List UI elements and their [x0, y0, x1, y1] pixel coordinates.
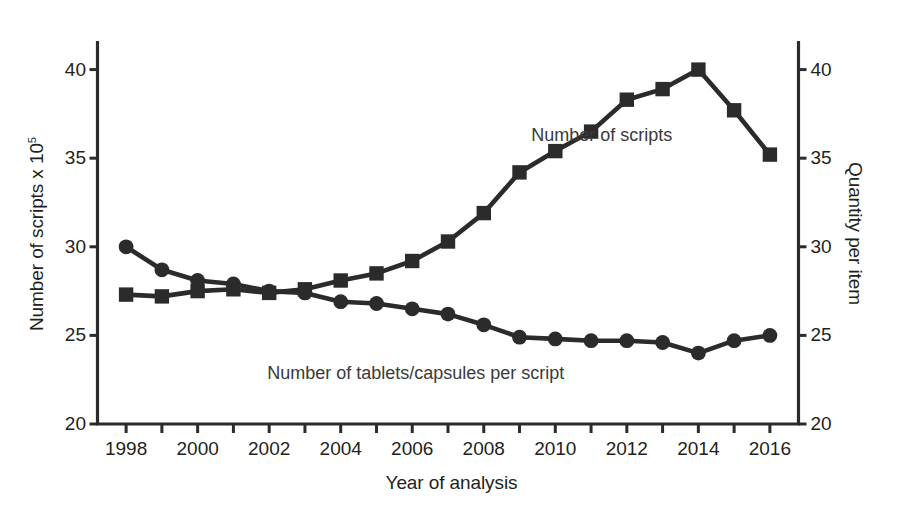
x-tick-label: 2002	[248, 438, 290, 460]
marker-square	[655, 82, 669, 96]
y-tick-label-left: 35	[30, 147, 86, 169]
marker-circle	[405, 301, 420, 316]
marker-circle	[155, 262, 170, 277]
marker-square	[155, 289, 169, 303]
x-tick-label: 2014	[677, 438, 719, 460]
series-annotation-2: Number of tablets/capsules per script	[267, 362, 564, 383]
x-tick-label: 2006	[391, 438, 433, 460]
marker-circle	[119, 239, 134, 254]
y-tick-label-right: 30	[811, 236, 832, 258]
y-tick-label-left: 40	[30, 59, 86, 81]
marker-square	[691, 62, 705, 76]
x-axis-title-text: Year of analysis	[386, 472, 518, 493]
marker-square	[334, 273, 348, 287]
y-tick-label-right: 20	[811, 413, 832, 435]
y-tick-label-left: 30	[30, 236, 86, 258]
marker-circle	[298, 286, 313, 301]
marker-circle	[619, 333, 634, 348]
marker-circle	[226, 277, 241, 292]
y-tick-label-right: 25	[811, 324, 832, 346]
marker-square	[405, 254, 419, 268]
x-tick-label: 2012	[606, 438, 648, 460]
marker-circle	[369, 296, 384, 311]
marker-circle	[655, 335, 670, 350]
marker-circle	[190, 273, 205, 288]
y-axis-right-title: Quantity per item	[844, 162, 866, 305]
chart-plot-area	[0, 0, 903, 507]
x-tick-label: 2008	[463, 438, 505, 460]
y-tick-label-right: 40	[811, 59, 832, 81]
x-axis-title: Year of analysis	[0, 472, 903, 494]
series-line-2	[126, 247, 770, 353]
series-markers	[119, 62, 778, 360]
marker-square	[119, 287, 133, 301]
marker-circle	[548, 332, 563, 347]
marker-square	[441, 234, 455, 248]
y-tick-label-right: 35	[811, 147, 832, 169]
marker-square	[512, 165, 526, 179]
marker-circle	[691, 346, 706, 361]
x-tick-label: 1998	[105, 438, 147, 460]
marker-circle	[727, 333, 742, 348]
marker-circle	[512, 330, 527, 345]
x-tick-label: 2010	[534, 438, 576, 460]
marker-circle	[476, 317, 491, 332]
marker-square	[548, 144, 562, 158]
y-axis-right-title-text: Quantity per item	[845, 162, 866, 305]
series-line-1	[126, 70, 770, 297]
marker-square	[369, 266, 383, 280]
marker-square	[763, 147, 777, 161]
marker-square	[620, 93, 634, 107]
marker-circle	[441, 307, 456, 322]
marker-circle	[584, 333, 599, 348]
marker-square	[477, 206, 491, 220]
series-annotation-1: Number of scripts	[531, 125, 672, 146]
marker-circle	[763, 328, 778, 343]
marker-circle	[262, 284, 277, 299]
chart-figure: Number of scripts x 105 Quantity per ite…	[0, 0, 903, 507]
x-tick-label: 2004	[320, 438, 362, 460]
x-tick-label: 2016	[749, 438, 791, 460]
y-tick-label-left: 20	[30, 413, 86, 435]
marker-square	[727, 103, 741, 117]
marker-circle	[333, 294, 348, 309]
y-tick-label-left: 25	[30, 324, 86, 346]
y-axis-left-title-exponent: 5	[26, 137, 38, 143]
x-tick-label: 2000	[177, 438, 219, 460]
